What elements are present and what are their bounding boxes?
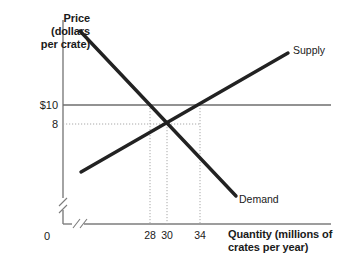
- x-tick-label-30: 30: [154, 229, 180, 241]
- x-axis-title: Quantity (millions ofcrates per year): [228, 228, 344, 254]
- y-axis-title: Price(dollarsper crate): [6, 12, 90, 51]
- origin-label: 0: [44, 230, 50, 243]
- demand-curve: [80, 31, 236, 196]
- supply-demand-chart: Price(dollarsper crate) Quantity (millio…: [0, 0, 348, 266]
- y-axis-title-line1: Price: [64, 12, 90, 24]
- y-axis-title-line2: (dollars: [51, 25, 90, 37]
- demand-curve-label: Demand: [239, 193, 279, 205]
- y-axis-title-line3: per crate): [41, 38, 90, 50]
- x-tick-label-34: 34: [187, 229, 213, 241]
- x-axis-title-line2: crates per year): [228, 241, 308, 253]
- supply-curve-label: Supply: [293, 44, 325, 56]
- y-tick-label-8: 8: [18, 118, 58, 131]
- y-tick-label-10: $10: [18, 99, 58, 112]
- x-axis-title-line1: Quantity (millions of: [228, 228, 332, 240]
- supply-curve: [81, 53, 288, 172]
